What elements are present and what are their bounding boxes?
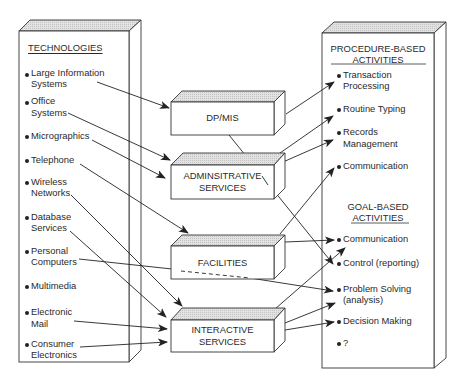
item-label: Large Information [31, 67, 104, 78]
item-label: Transaction [343, 69, 392, 80]
item-label: Records [343, 126, 378, 137]
item-label: Systems [31, 107, 67, 118]
bullet-icon [337, 165, 341, 169]
item-label: Networks [31, 187, 70, 198]
item-label: ? [343, 337, 348, 348]
box-interactive-services-label: INTERACTIVE SERVICES [171, 324, 274, 348]
item-label: Database [31, 211, 71, 222]
item-label: Personal [31, 245, 68, 256]
item-label: Electronics [31, 349, 77, 360]
bullet-icon [337, 288, 341, 292]
title-line: ACTIVITIES [322, 212, 434, 223]
goal-based-title: GOAL-BASED ACTIVITIES [322, 201, 434, 223]
item-label: Multimedia [31, 280, 76, 291]
box-label-line: INTERACTIVE [171, 324, 274, 336]
bullet-icon [25, 159, 29, 163]
box-label-line: FACILITIES [171, 257, 274, 269]
bullet-icon [25, 216, 29, 220]
item-label: Telephone [31, 154, 74, 165]
procedure-based-title: PROCEDURE-BASED ACTIVITIES [322, 43, 434, 65]
item-label: Routine Typing [343, 103, 405, 114]
item-label: Wireless [31, 176, 67, 187]
title-line: ACTIVITIES [322, 54, 434, 65]
bullet-icon [25, 285, 29, 289]
bullet-icon [337, 108, 341, 112]
box-label-line: DP/MIS [171, 112, 274, 124]
item-label: Problem Solving [343, 283, 411, 294]
item-label: Decision Making [343, 315, 412, 326]
bullet-icon [25, 343, 29, 347]
box-facilities-label: FACILITIES [171, 257, 274, 269]
bullet-icon [25, 311, 29, 315]
bullet-icon [337, 74, 341, 78]
item-label: Office [31, 95, 55, 106]
item-label: Communication [343, 233, 408, 244]
bullet-icon [25, 101, 29, 105]
box-dp-mis-label: DP/MIS [171, 112, 274, 124]
item-label: Communication [343, 160, 408, 171]
box-administrative-services-label: ADMINSITRATIVE SERVICES [171, 170, 274, 194]
item-label: Control (reporting) [343, 257, 419, 268]
bullet-icon [25, 73, 29, 77]
item-label: Management [343, 138, 398, 149]
box-label-line: SERVICES [171, 182, 274, 194]
item-label: Consumer [31, 338, 74, 349]
bullet-icon [337, 342, 341, 346]
title-line: GOAL-BASED [322, 201, 434, 212]
bullet-icon [337, 320, 341, 324]
item-label: Mail [31, 318, 48, 329]
bullet-icon [337, 131, 341, 135]
box-label-line: ADMINSITRATIVE [171, 170, 274, 182]
item-label: Systems [31, 78, 67, 89]
technologies-title: TECHNOLOGIES [28, 42, 103, 53]
item-label: (analysis) [343, 294, 383, 305]
item-label: Micrographics [31, 130, 89, 141]
item-label: Electronic [31, 306, 72, 317]
bullet-icon [25, 135, 29, 139]
item-label: Services [31, 222, 67, 233]
title-line: PROCEDURE-BASED [322, 43, 434, 54]
bullet-icon [25, 250, 29, 254]
item-label: Computers [31, 256, 77, 267]
bullet-icon [337, 238, 341, 242]
bullet-icon [337, 262, 341, 266]
box-label-line: SERVICES [171, 336, 274, 348]
bullet-icon [25, 181, 29, 185]
item-label: Processing [343, 80, 389, 91]
